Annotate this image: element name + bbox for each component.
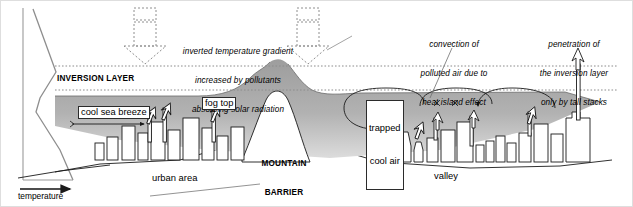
anno1-line2: increased by pollutants <box>165 76 311 86</box>
trapped-line1: trapped <box>369 123 401 134</box>
diagram-canvas: inverted temperature gradient increased … <box>0 0 633 207</box>
trapped-line2: cool air <box>369 156 401 167</box>
mountain-barrier-label: MOUNTAIN BARRIER <box>253 140 315 207</box>
fog-top-label: fog top <box>202 97 236 110</box>
shoreline-right <box>150 184 260 196</box>
anno2-line3: heat island effect <box>396 98 512 108</box>
inversion-layer-label: INVERSION LAYER <box>57 74 134 84</box>
trapped-cool-air-label: trapped cool air <box>366 100 404 190</box>
anno3-line2: the inversion layer <box>518 69 630 79</box>
annotation-convection: convection of polluted air due to heat i… <box>396 21 512 127</box>
anno3-line3: only by tall stacks <box>518 98 630 108</box>
anno2-line2: polluted air due to <box>396 69 512 79</box>
urban-area-label: urban area <box>152 172 197 183</box>
anno3-line1: penetration of <box>518 40 630 50</box>
cooling-tower-2 <box>414 142 423 162</box>
temperature-profile-line <box>33 9 73 180</box>
shoreline-left <box>18 165 110 178</box>
annotation-solar-radiation: inverted temperature gradient increased … <box>165 28 311 134</box>
cool-sea-breeze-label: cool sea breeze <box>78 106 150 119</box>
mountain-barrier-line2: BARRIER <box>253 188 315 198</box>
anno1-line1: inverted temperature gradient <box>165 47 311 57</box>
valley-label: valley <box>434 170 458 181</box>
annotation-tall-stack: penetration of the inversion layer only … <box>518 21 630 127</box>
anno1-line3: absorbing solar radiation <box>165 105 311 115</box>
temperature-axis-label: temperature <box>18 192 63 202</box>
solar-radiation-arrow-left <box>124 8 166 64</box>
leader-line-radiation-right <box>327 36 352 50</box>
mountain-barrier-line1: MOUNTAIN <box>253 159 315 169</box>
anno2-line1: convection of <box>396 40 512 50</box>
